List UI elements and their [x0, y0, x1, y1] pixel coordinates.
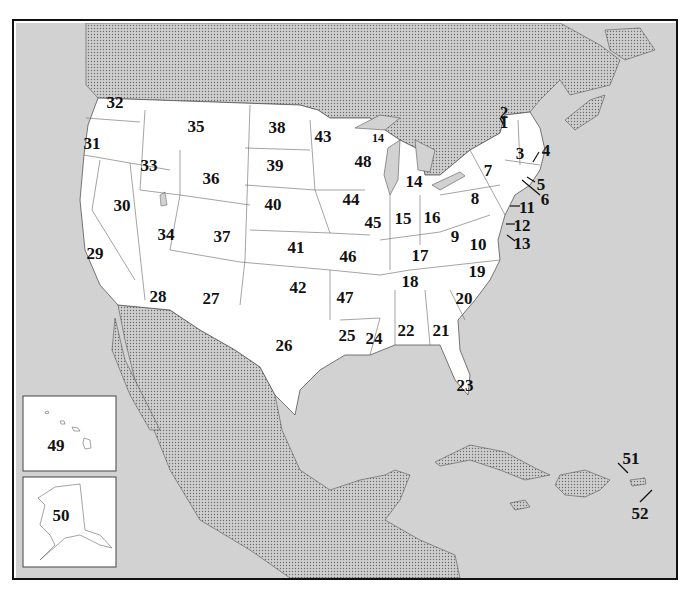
region-label-9: 9	[451, 228, 460, 245]
region-label-50: 50	[53, 507, 70, 524]
region-label-16: 16	[424, 209, 441, 226]
region-label-49: 49	[48, 437, 65, 454]
region-label-52: 52	[632, 505, 649, 522]
region-label-41: 41	[288, 239, 305, 256]
region-label-42: 42	[290, 279, 307, 296]
region-label-2: 2	[500, 104, 509, 121]
region-label-14: 14	[406, 173, 423, 190]
region-label-20: 20	[456, 290, 473, 307]
region-label-6: 6	[541, 191, 550, 208]
region-label-28: 28	[150, 288, 167, 305]
region-label-21: 21	[433, 322, 450, 339]
region-label-37: 37	[214, 228, 231, 245]
region-label-34: 34	[158, 226, 175, 243]
region-label-26: 26	[276, 337, 293, 354]
region-label-32: 32	[107, 94, 124, 111]
region-label-40: 40	[265, 196, 282, 213]
region-label-46: 46	[340, 248, 357, 265]
region-label-27: 27	[203, 290, 220, 307]
hawaii-inset	[23, 396, 116, 471]
region-label-4: 4	[542, 142, 551, 159]
region-label-7: 7	[484, 162, 493, 179]
region-label-14b: 14	[372, 132, 384, 144]
region-label-31: 31	[84, 135, 101, 152]
region-label-48: 48	[355, 153, 372, 170]
region-label-3: 3	[516, 145, 525, 162]
region-label-8: 8	[471, 190, 480, 207]
region-label-13: 13	[514, 235, 531, 252]
region-label-12: 12	[514, 217, 531, 234]
region-label-17: 17	[412, 247, 429, 264]
region-label-39: 39	[267, 157, 284, 174]
region-label-19: 19	[469, 263, 486, 280]
region-label-36: 36	[203, 170, 220, 187]
region-label-15: 15	[395, 210, 412, 227]
region-label-25: 25	[339, 327, 356, 344]
region-label-44: 44	[343, 191, 360, 208]
region-label-43: 43	[315, 128, 332, 145]
region-label-35: 35	[188, 118, 205, 135]
region-label-11: 11	[519, 199, 535, 216]
region-label-22: 22	[398, 322, 415, 339]
region-label-47: 47	[337, 289, 354, 306]
region-label-51: 51	[623, 450, 640, 467]
region-label-18: 18	[402, 273, 419, 290]
region-label-10: 10	[470, 236, 487, 253]
region-label-33: 33	[141, 157, 158, 174]
region-label-23: 23	[457, 377, 474, 394]
region-label-29: 29	[87, 245, 104, 262]
region-label-30: 30	[114, 197, 131, 214]
region-label-45: 45	[365, 214, 382, 231]
region-label-24: 24	[366, 330, 383, 347]
region-label-38: 38	[269, 119, 286, 136]
